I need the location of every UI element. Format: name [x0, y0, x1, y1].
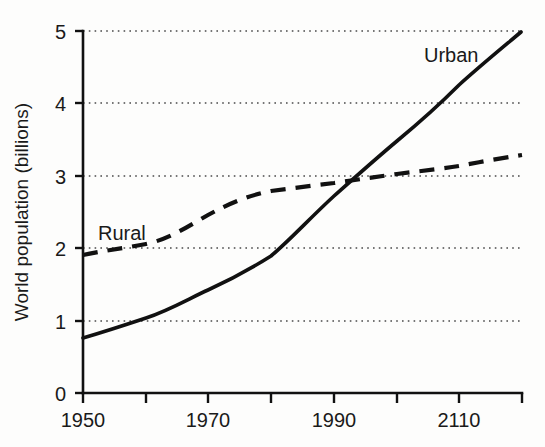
y-tick-label-5: 5 [55, 21, 66, 43]
y-tick-label-4: 4 [55, 93, 66, 115]
y-tick-label-1: 1 [55, 311, 66, 333]
series-line-rural [83, 155, 522, 255]
x-tick-label-1990: 1990 [312, 409, 357, 431]
x-tick-label-1950: 1950 [61, 409, 106, 431]
y-tick-label-3: 3 [55, 166, 66, 188]
world-population-line-chart: 5 4 3 2 1 0 1950 1970 1990 2110 World po… [0, 0, 545, 447]
series-label-rural: Rural [98, 222, 146, 244]
y-tick-label-0: 0 [55, 383, 66, 405]
x-tick-labels: 1950 1970 1990 2110 [61, 409, 481, 431]
chart-container: 5 4 3 2 1 0 1950 1970 1990 2110 World po… [0, 0, 545, 447]
x-tick-label-1970: 1970 [186, 409, 231, 431]
y-tick-label-2: 2 [55, 238, 66, 260]
y-tick-labels: 5 4 3 2 1 0 [55, 21, 66, 405]
y-axis-title: World population (billions) [11, 103, 32, 321]
x-tick-marks [83, 393, 522, 403]
series-label-urban: Urban [424, 44, 478, 66]
x-tick-label-2110: 2110 [437, 409, 480, 431]
gridlines [83, 31, 522, 321]
